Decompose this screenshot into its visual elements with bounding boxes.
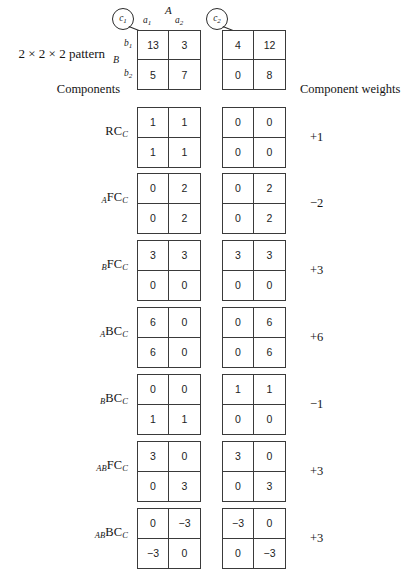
- matrix-cell: −3: [223, 509, 254, 539]
- matrix-cell: 0: [169, 271, 200, 301]
- matrix-abc-a-c1: 6 0 6 0: [137, 307, 201, 368]
- matrix-pattern-c2: 4 12 0 8: [222, 30, 286, 90]
- matrix-cell: 0: [138, 271, 169, 301]
- component-label-abbc: ABBCC: [0, 525, 128, 540]
- weight-bfc: +3: [310, 263, 323, 278]
- factor-b-header: B: [113, 54, 119, 65]
- matrix-cell: 0: [223, 204, 254, 234]
- matrix-cell: 0: [223, 405, 254, 435]
- matrix-cell: 1: [169, 405, 200, 435]
- matrix-cell: 5: [138, 60, 169, 89]
- matrix-cell: 1: [169, 138, 200, 168]
- matrix-cell: 0: [254, 442, 285, 472]
- matrix-cell: 3: [138, 241, 169, 271]
- component-label-abbc-sub: C: [122, 530, 128, 540]
- matrix-cell: 1: [138, 405, 169, 435]
- matrix-cell: 4: [223, 31, 254, 60]
- matrix-cell: 0: [138, 375, 169, 405]
- row-header-b1: b1: [124, 38, 132, 50]
- component-label-abc-a-main: BC: [105, 324, 122, 338]
- component-label-bfc: BFCC: [0, 257, 128, 272]
- components-label: Components: [0, 82, 120, 97]
- matrix-cell: 0: [254, 108, 285, 138]
- weight-abbc: +3: [310, 531, 323, 546]
- component-label-rc: RCC: [0, 124, 128, 139]
- matrix-cell: 0: [223, 271, 254, 301]
- matrix-cell: 6: [138, 308, 169, 338]
- matrix-abc-a-c2: 0 6 0 6: [222, 307, 286, 368]
- weight-abfc: +3: [310, 464, 323, 479]
- matrix-cell: 1: [138, 138, 169, 168]
- component-label-afc-sub: C: [122, 195, 128, 205]
- matrix-cell: 3: [169, 472, 200, 502]
- component-label-abc-a: ABCC: [0, 324, 128, 339]
- matrix-cell: 6: [138, 338, 169, 368]
- matrix-pattern-c1: 13 3 5 7: [137, 30, 201, 90]
- component-label-abc-b: BBCC: [0, 391, 128, 406]
- matrix-cell: 6: [254, 338, 285, 368]
- component-label-rc-sub: C: [122, 129, 128, 139]
- matrix-abbc-c2: −3 0 0 −3: [222, 508, 286, 569]
- matrix-cell: 2: [254, 204, 285, 234]
- matrix-cell: 1: [223, 375, 254, 405]
- matrix-cell: 3: [223, 442, 254, 472]
- matrix-cell: 0: [169, 442, 200, 472]
- matrix-cell: 1: [254, 375, 285, 405]
- factor-a-header: A: [165, 4, 172, 16]
- matrix-cell: 6: [254, 308, 285, 338]
- component-label-afc: AFCC: [0, 190, 128, 205]
- matrix-abfc-c2: 3 0 0 3: [222, 441, 286, 502]
- weight-afc: −2: [310, 196, 323, 211]
- matrix-cell: 0: [223, 338, 254, 368]
- component-label-abfc-sub: C: [122, 463, 128, 473]
- matrix-cell: −3: [169, 509, 200, 539]
- matrix-cell: −3: [138, 539, 169, 569]
- matrix-cell: 3: [254, 472, 285, 502]
- component-label-abc-b-main: BC: [105, 391, 122, 405]
- component-label-abfc-pre: AB: [96, 463, 107, 473]
- matrix-cell: 3: [223, 241, 254, 271]
- pattern-label: 2 × 2 × 2 pattern: [0, 46, 105, 62]
- matrix-cell: 3: [138, 442, 169, 472]
- weight-rc: +1: [310, 130, 323, 145]
- matrix-cell: 8: [254, 60, 285, 89]
- matrix-abc-b-c1: 0 0 1 1: [137, 374, 201, 435]
- component-label-bfc-main: FC: [107, 257, 123, 271]
- figure-root: c1 c2 A a1 a2 B b1 b2 2 × 2 × 2 pattern …: [0, 0, 416, 586]
- component-label-abfc-main: FC: [107, 458, 123, 472]
- matrix-abbc-c1: 0 −3 −3 0: [137, 508, 201, 569]
- matrix-cell: 13: [138, 31, 169, 60]
- component-weights-label: Component weights: [300, 82, 400, 97]
- component-label-rc-main: RC: [105, 124, 122, 138]
- matrix-afc-c1: 0 2 0 2: [137, 173, 201, 234]
- matrix-cell: 0: [223, 539, 254, 569]
- panel-label-c1-text: c1: [119, 14, 127, 25]
- component-label-abc-a-sub: C: [122, 329, 128, 339]
- matrix-cell: 3: [169, 31, 200, 60]
- matrix-cell: 0: [223, 472, 254, 502]
- matrix-cell: 0: [254, 509, 285, 539]
- matrix-cell: 12: [254, 31, 285, 60]
- matrix-afc-c2: 0 2 0 2: [222, 173, 286, 234]
- component-label-abbc-main: BC: [105, 525, 122, 539]
- matrix-cell: 1: [138, 108, 169, 138]
- matrix-cell: 0: [169, 338, 200, 368]
- component-label-abfc: ABFCC: [0, 458, 128, 473]
- matrix-cell: 7: [169, 60, 200, 89]
- matrix-bfc-c1: 3 3 0 0: [137, 240, 201, 301]
- matrix-cell: 0: [169, 308, 200, 338]
- matrix-cell: 0: [138, 509, 169, 539]
- row-header-b2: b2: [124, 68, 132, 80]
- matrix-cell: 0: [223, 174, 254, 204]
- weight-abc-a: +6: [310, 330, 323, 345]
- component-label-afc-main: FC: [107, 190, 123, 204]
- matrix-cell: 2: [169, 204, 200, 234]
- matrix-cell: 0: [138, 472, 169, 502]
- matrix-cell: 2: [254, 174, 285, 204]
- panel-label-c2-text: c2: [213, 14, 221, 25]
- matrix-abc-b-c2: 1 1 0 0: [222, 374, 286, 435]
- component-label-abbc-pre: AB: [95, 530, 106, 540]
- weight-abc-b: −1: [310, 397, 323, 412]
- matrix-abfc-c1: 3 0 0 3: [137, 441, 201, 502]
- matrix-cell: 0: [223, 108, 254, 138]
